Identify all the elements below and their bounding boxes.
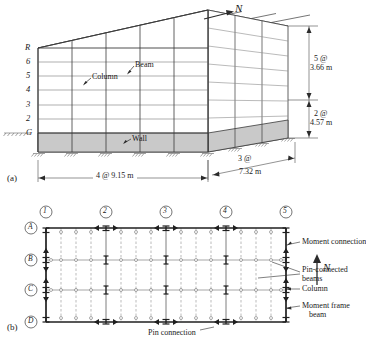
east-face [208, 10, 288, 152]
dim-bottom-side-value: 7.32 m [239, 168, 261, 176]
grid-label-2: 2 [103, 207, 107, 215]
wall-label: Wall [132, 135, 147, 143]
grid-label-5: 5 [283, 207, 287, 215]
grid-label-1: 1 [43, 207, 47, 215]
grid-label-d: D [28, 317, 33, 325]
dim-lower-value: 4.57 m [310, 119, 332, 127]
grid-label-3: 3 [163, 207, 167, 215]
floor-label-4: 4 [26, 85, 30, 94]
floor-label-ground: G [26, 128, 32, 137]
floor-label-2: 2 [26, 114, 30, 123]
north-label-isometric: N [235, 3, 242, 15]
grid-bubbles-rows [25, 222, 37, 328]
grid-label-b: B [28, 255, 33, 263]
dim-bottom-front: 4 @ 9.15 m [93, 172, 137, 180]
dim-upper-value: 3.66 m [310, 64, 332, 72]
south-face [38, 10, 208, 152]
grid-label-4: 4 [223, 207, 227, 215]
grid-label-a: A [28, 223, 33, 231]
plan-view [25, 206, 321, 330]
interior-column-lines [106, 228, 226, 322]
callout-pin-connection: Pin connection [148, 329, 196, 337]
dim-bottom-side-count: 3 @ [236, 155, 253, 163]
subfigure-b-label: (b) [7, 323, 18, 332]
plan-callout-leaders [200, 242, 300, 330]
callout-column: Column [302, 285, 328, 293]
floor-label-roof: R [25, 43, 30, 52]
north-label-plan: N [323, 262, 330, 274]
grid-label-c: C [28, 285, 33, 293]
beam-label: Beam [135, 61, 154, 69]
column-label: Column [92, 73, 118, 81]
elevation-isometric [4, 10, 311, 157]
callout-moment-connection: Moment connection [302, 238, 366, 246]
callout-moment-frame-beam-line2: beam [309, 311, 326, 319]
floor-label-5: 5 [26, 71, 30, 80]
subfigure-a-label: (a) [7, 174, 17, 183]
floor-label-3: 3 [26, 100, 30, 109]
callout-pin-connected-beams-line2: beams [302, 275, 322, 283]
floor-label-6: 6 [26, 57, 30, 66]
